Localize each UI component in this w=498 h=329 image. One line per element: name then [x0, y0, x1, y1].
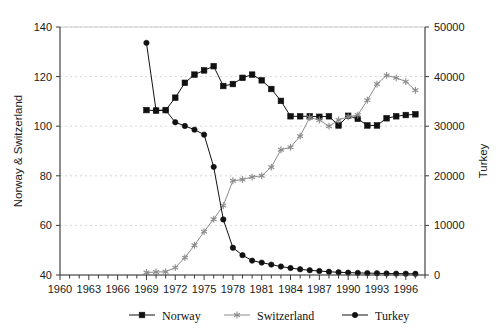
marker-circle	[163, 108, 168, 113]
marker-square	[201, 68, 207, 74]
marker-circle	[288, 265, 293, 270]
marker-square	[403, 112, 409, 118]
x-tick-label: 1972	[163, 283, 187, 295]
x-tick-label: 1966	[105, 283, 129, 295]
secondary-y-axis-title: Turkey	[477, 143, 489, 178]
x-tick-label: 1984	[278, 283, 302, 295]
marker-square	[413, 111, 419, 117]
y-tick-label: 100	[34, 120, 52, 132]
marker-square	[139, 312, 145, 318]
marker-square	[326, 113, 332, 119]
marker-square	[365, 123, 371, 129]
x-tick-label: 1987	[307, 283, 331, 295]
y2-tick-label: 50000	[434, 21, 465, 33]
x-tick-label: 1990	[336, 283, 360, 295]
x-tick-label: 1993	[365, 283, 389, 295]
chart-container: 1960196319661969197219751978198119841987…	[0, 0, 498, 329]
marker-circle	[336, 270, 341, 275]
marker-square	[220, 83, 226, 89]
y2-tick-label: 40000	[434, 71, 465, 83]
legend-label-norway: Norway	[162, 309, 201, 323]
marker-circle	[269, 262, 274, 267]
marker-circle	[240, 252, 245, 257]
marker-square	[259, 78, 265, 84]
marker-circle	[326, 269, 331, 274]
marker-circle	[173, 120, 178, 125]
marker-square	[278, 98, 284, 104]
y-tick-label: 120	[34, 71, 52, 83]
x-tick-label: 1996	[394, 283, 418, 295]
marker-square	[240, 75, 246, 81]
marker-circle	[192, 127, 197, 132]
y-tick-label: 40	[40, 269, 52, 281]
plot-background	[0, 0, 498, 329]
marker-circle	[182, 123, 187, 128]
marker-square	[297, 113, 303, 119]
marker-square	[172, 95, 178, 101]
marker-circle	[230, 245, 235, 250]
y2-tick-label: 20000	[434, 170, 465, 182]
marker-square	[374, 123, 380, 129]
line-chart: 1960196319661969197219751978198119841987…	[0, 0, 498, 329]
marker-square	[182, 80, 188, 86]
x-tick-label: 1963	[77, 283, 101, 295]
marker-circle	[297, 267, 302, 272]
marker-circle	[317, 268, 322, 273]
marker-square	[249, 72, 255, 78]
marker-square	[269, 86, 275, 92]
x-tick-label: 1978	[221, 283, 245, 295]
y-tick-label: 60	[40, 219, 52, 231]
y2-tick-label: 30000	[434, 120, 465, 132]
marker-circle	[307, 268, 312, 273]
marker-circle	[144, 40, 149, 45]
marker-square	[336, 123, 342, 129]
marker-square	[144, 107, 150, 113]
y2-tick-label: 10000	[434, 219, 465, 231]
marker-square	[288, 113, 294, 119]
x-tick-label: 1981	[249, 283, 273, 295]
y2-tick-label: 0	[434, 269, 440, 281]
marker-square	[393, 113, 399, 119]
marker-circle	[249, 258, 254, 263]
marker-circle	[211, 164, 216, 169]
marker-square	[230, 81, 236, 87]
legend-label-switzerland: Switzerland	[257, 309, 314, 323]
marker-circle	[352, 312, 357, 317]
x-tick-label: 1960	[48, 283, 72, 295]
y-tick-label: 140	[34, 21, 52, 33]
x-tick-label: 1975	[192, 283, 216, 295]
marker-circle	[278, 264, 283, 269]
x-tick-label: 1969	[134, 283, 158, 295]
marker-circle	[201, 132, 206, 137]
legend-label-turkey: Turkey	[375, 309, 409, 323]
marker-square	[192, 72, 198, 78]
y-tick-label: 80	[40, 170, 52, 182]
marker-square	[211, 63, 217, 69]
marker-square	[384, 115, 390, 121]
marker-circle	[221, 217, 226, 222]
marker-circle	[259, 260, 264, 265]
y-axis-title: Norway & Switzerland	[12, 95, 24, 207]
marker-circle	[153, 108, 158, 113]
